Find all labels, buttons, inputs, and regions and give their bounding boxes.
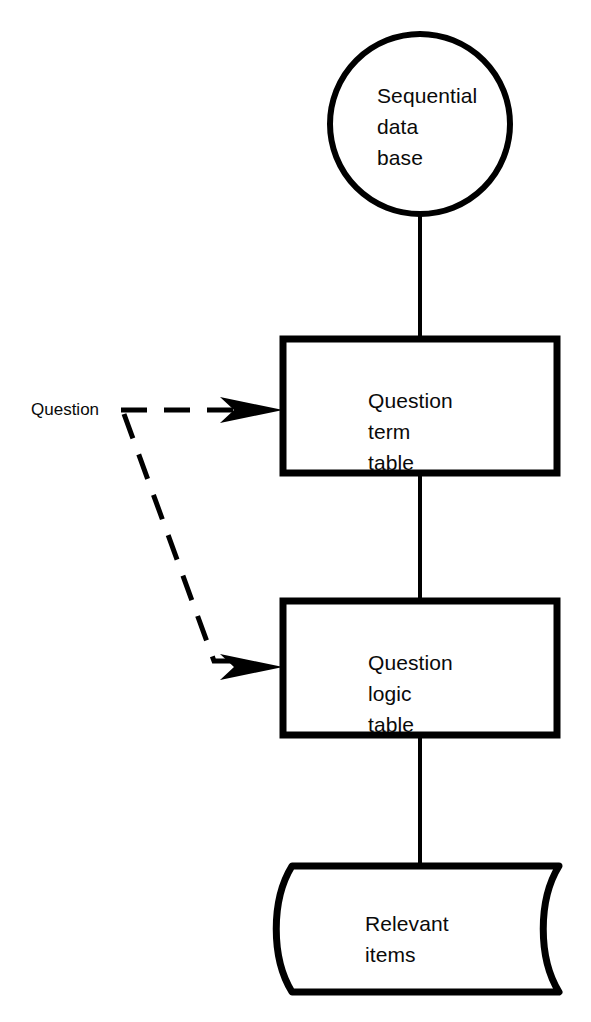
node-question-term-table-label: Question term table: [368, 385, 453, 478]
arrowhead-to-logic-table: [220, 654, 283, 680]
node-relevant-items-label: Relevant items: [365, 908, 449, 970]
node-sequential-data-base-label: Sequential data base: [377, 80, 477, 173]
edge-label-question: Question: [31, 400, 99, 420]
diagram-canvas: [0, 0, 591, 1022]
node-question-logic-table-label: Question logic table: [368, 647, 453, 740]
dashed-edge-question-to-logic-table: [124, 414, 237, 661]
flowchart-diagram: Sequential data base Question term table…: [0, 0, 591, 1022]
